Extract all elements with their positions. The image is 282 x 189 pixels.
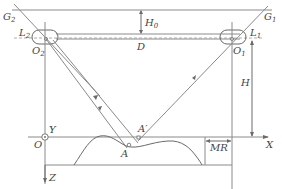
label-g2-sub: 2 bbox=[10, 16, 16, 24]
o2-return-line bbox=[53, 40, 138, 143]
label-g1: G1 bbox=[264, 11, 276, 24]
g1-beam-arrow bbox=[192, 75, 196, 80]
h-arrow-bottom bbox=[250, 132, 254, 137]
surface-profile-curve bbox=[74, 136, 202, 165]
label-x: X bbox=[265, 139, 274, 150]
label-g2-main: G bbox=[3, 11, 11, 22]
h-arrow-top bbox=[250, 40, 254, 45]
label-h0-main: H bbox=[144, 17, 154, 28]
label-d: D bbox=[136, 41, 145, 52]
label-g2: G2 bbox=[3, 11, 16, 24]
g2-beam-line bbox=[14, 4, 100, 96]
label-l1-sub: 1 bbox=[257, 32, 261, 40]
label-o1: O1 bbox=[233, 45, 246, 58]
label-g1-sub: 1 bbox=[272, 16, 276, 24]
o2-to-a-line bbox=[46, 39, 127, 148]
z-axis-arrow bbox=[43, 178, 47, 183]
label-o: O bbox=[34, 139, 42, 150]
point-a-marker bbox=[127, 143, 131, 147]
label-g1-main: G bbox=[264, 11, 272, 22]
label-y: Y bbox=[49, 124, 57, 135]
label-l2-sub: 2 bbox=[25, 32, 31, 40]
label-o1-sub: 1 bbox=[241, 50, 245, 58]
h0-arrow-bottom bbox=[139, 30, 143, 34]
label-mr: MR bbox=[209, 142, 228, 153]
label-a: A bbox=[120, 148, 128, 159]
h0-arrow-top bbox=[139, 10, 143, 14]
beam-arrow-up bbox=[93, 95, 98, 100]
label-o1-main: O bbox=[233, 45, 241, 56]
label-h0: H0 bbox=[144, 17, 159, 30]
label-z: Z bbox=[48, 172, 57, 183]
label-h0-sub: 0 bbox=[154, 22, 159, 30]
label-o2-sub: 2 bbox=[39, 50, 45, 58]
triangulation-diagram: G2 G1 L2 L1 O2 O1 D H0 H Y O A A′ MR X Z bbox=[0, 0, 282, 189]
point-a-prime-marker bbox=[137, 136, 140, 139]
label-h: H bbox=[240, 77, 250, 88]
label-o2: O2 bbox=[32, 45, 45, 58]
y-axis-dot bbox=[44, 136, 46, 138]
label-o2-main: O bbox=[32, 45, 40, 56]
label-a-prime: A′ bbox=[137, 123, 148, 134]
